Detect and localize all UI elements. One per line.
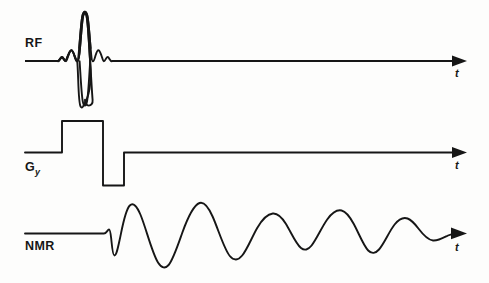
gy-gradient-waveform bbox=[25, 121, 462, 186]
rf-time-axis-label: t bbox=[455, 67, 460, 79]
gy-channel-label: G bbox=[25, 160, 35, 174]
rf-sinc-pulse-outline bbox=[58, 12, 112, 61]
nmr-channel-label: NMR bbox=[25, 239, 55, 253]
pulse-sequence-figure: RF t G y t NMR t bbox=[0, 0, 489, 283]
nmr-axis-arrowhead bbox=[451, 228, 467, 240]
nmr-channel-group: NMR t bbox=[25, 203, 467, 268]
pulse-sequence-svg: RF t G y t NMR t bbox=[0, 0, 489, 283]
gy-time-axis-label: t bbox=[455, 159, 460, 171]
rf-channel-label: RF bbox=[25, 36, 42, 50]
nmr-time-axis-label: t bbox=[455, 241, 460, 253]
rf-channel-group: RF t bbox=[25, 12, 467, 108]
rf-axis-arrowhead bbox=[452, 56, 467, 67]
gy-channel-label-subscript: y bbox=[34, 167, 41, 177]
gy-axis-arrowhead bbox=[452, 147, 467, 158]
nmr-signal-waveform bbox=[25, 203, 461, 268]
gy-channel-group: G y t bbox=[25, 121, 467, 186]
